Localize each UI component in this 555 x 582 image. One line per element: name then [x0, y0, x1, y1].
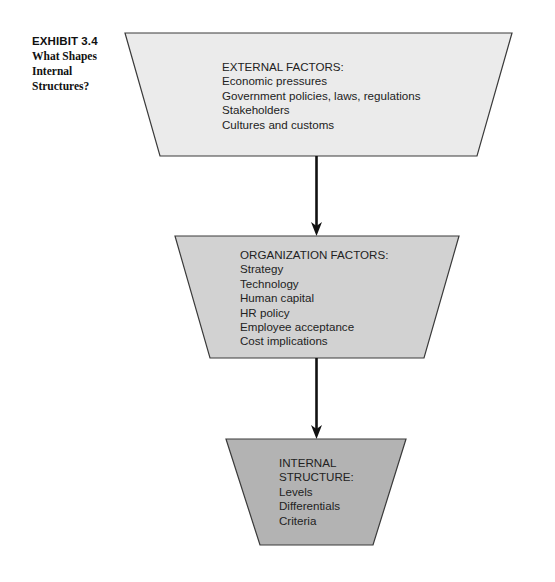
internal-structure-box: INTERNAL STRUCTURE: Levels Differentials…	[279, 456, 354, 528]
external-factor-item: Government policies, laws, regulations	[222, 89, 420, 103]
arrow-down-icon	[311, 358, 322, 439]
external-factors-box: EXTERNAL FACTORS: Economic pressures Gov…	[222, 60, 420, 132]
internal-structure-item: Differentials	[279, 499, 354, 513]
arrow-down-icon	[311, 156, 322, 236]
external-factor-item: Economic pressures	[222, 74, 420, 88]
external-factors-heading: EXTERNAL FACTORS:	[222, 60, 420, 74]
organization-factor-item: Technology	[240, 277, 388, 291]
organization-factor-item: HR policy	[240, 306, 388, 320]
organization-factor-item: Cost implications	[240, 334, 388, 348]
internal-structure-item: Criteria	[279, 514, 354, 528]
internal-structure-heading: STRUCTURE:	[279, 470, 354, 484]
organization-factor-item: Human capital	[240, 291, 388, 305]
organization-factor-item: Employee acceptance	[240, 320, 388, 334]
external-factor-item: Stakeholders	[222, 103, 420, 117]
organization-factor-item: Strategy	[240, 262, 388, 276]
organization-factors-heading: ORGANIZATION FACTORS:	[240, 248, 388, 262]
internal-structure-item: Levels	[279, 485, 354, 499]
external-factor-item: Cultures and customs	[222, 118, 420, 132]
organization-factors-box: ORGANIZATION FACTORS: Strategy Technolog…	[240, 248, 388, 349]
internal-structure-heading: INTERNAL	[279, 456, 354, 470]
